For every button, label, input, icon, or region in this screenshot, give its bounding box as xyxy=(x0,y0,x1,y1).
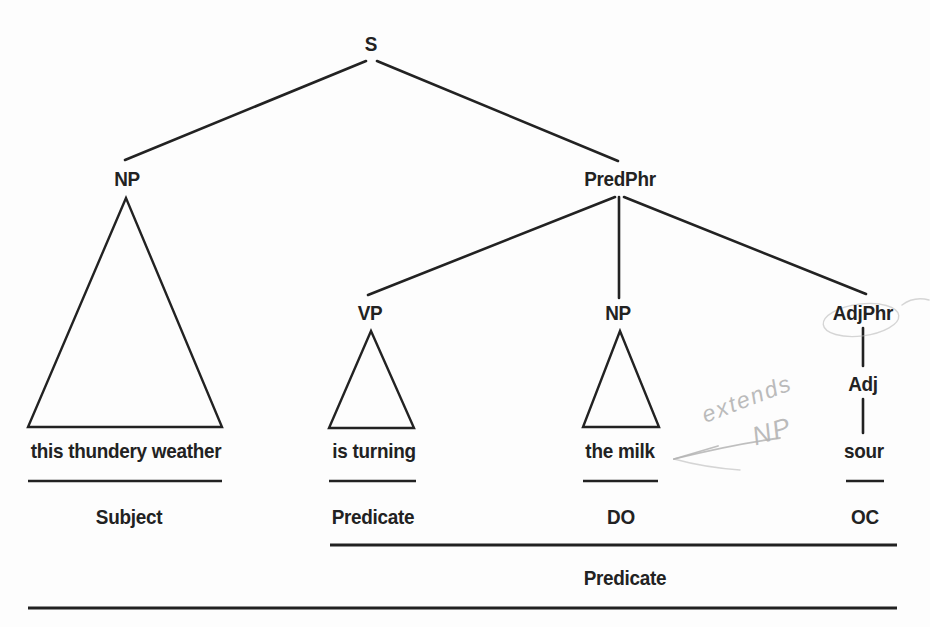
function-predicate-verb: Predicate xyxy=(332,506,415,527)
pencil-arrow-barb-top xyxy=(674,446,718,459)
word-object-complement: sour xyxy=(844,440,884,461)
triangle-vp xyxy=(329,331,414,428)
word-verb: is turning xyxy=(332,440,415,461)
word-direct-object: the milk xyxy=(585,440,654,461)
edge-s-predphr xyxy=(377,61,618,161)
node-adj: Adj xyxy=(848,373,878,394)
tree-lines-canvas xyxy=(0,0,930,627)
function-subject: Subject xyxy=(96,506,162,527)
node-np-object: NP xyxy=(605,302,631,323)
triangle-np-object xyxy=(583,331,659,427)
function-predicate-full: Predicate xyxy=(584,567,667,588)
node-adjphr: AdjPhr xyxy=(833,302,893,323)
syntax-tree-figure: S NP PredPhr VP NP AdjPhr Adj this thund… xyxy=(0,0,930,627)
triangle-np-subject xyxy=(28,198,222,427)
node-np-subject: NP xyxy=(114,168,140,189)
pencil-stray-mark xyxy=(902,299,929,305)
node-predphr: PredPhr xyxy=(584,168,656,189)
function-do: DO xyxy=(607,506,635,527)
edge-predphr-vp xyxy=(368,197,615,295)
word-subject: this thundery weather xyxy=(31,440,222,461)
edge-s-np xyxy=(125,61,366,160)
edge-predphr-adjphr xyxy=(624,197,866,294)
function-oc: OC xyxy=(851,506,879,527)
pencil-arrow-barb-bottom xyxy=(674,459,740,470)
node-s: S xyxy=(365,33,377,54)
node-vp: VP xyxy=(358,302,383,323)
